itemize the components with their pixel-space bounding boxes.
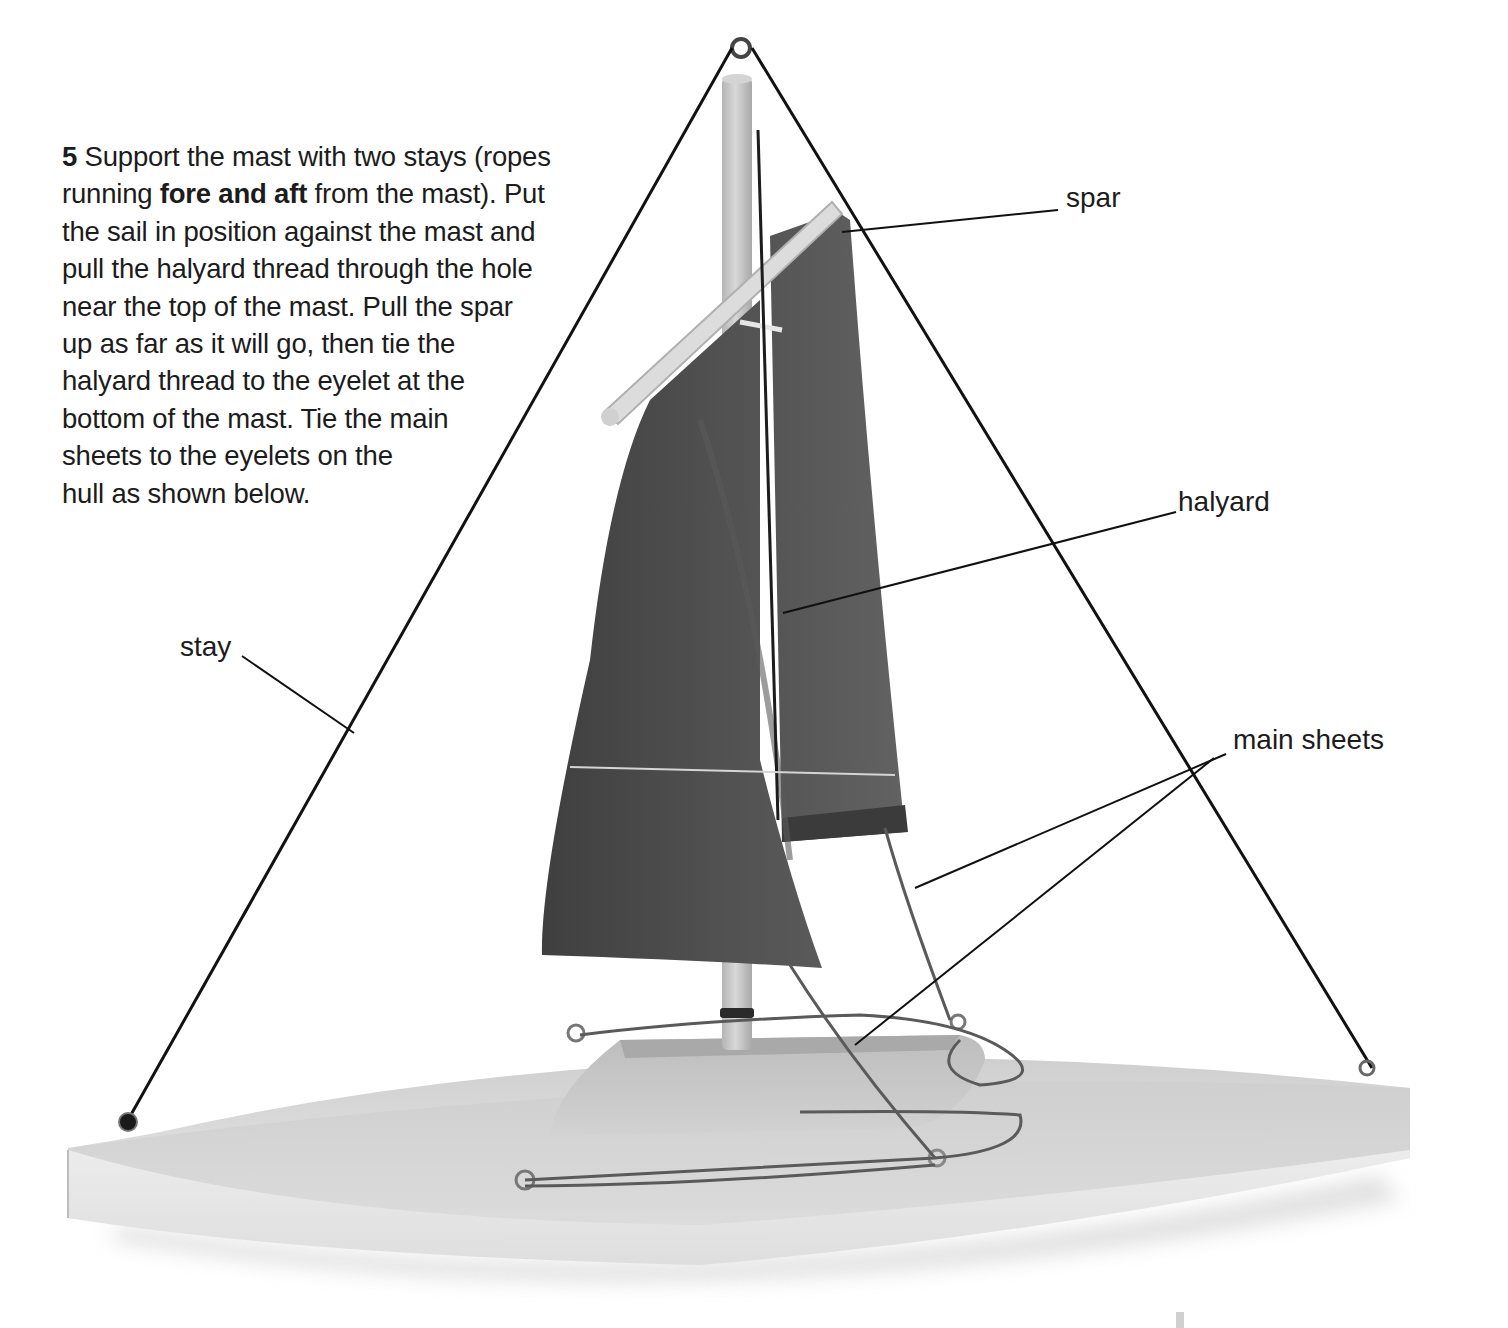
instruction-line: halyard thread to the eyelet at the — [62, 362, 662, 399]
instruction-line: hull as shown below. — [62, 475, 662, 512]
back-sail — [770, 212, 908, 842]
step-instructions: 5 Support the mast with two stays (ropes… — [62, 138, 662, 512]
label-halyard: halyard — [1178, 486, 1270, 518]
stay-leader-line — [242, 656, 354, 733]
instruction-line: 5 Support the mast with two stays (ropes — [62, 138, 662, 175]
instruction-line: pull the halyard thread through the hole — [62, 250, 662, 287]
top-eyelet — [732, 39, 750, 57]
label-spar: spar — [1066, 182, 1120, 214]
main-sheets-leader-line-1 — [915, 754, 1226, 888]
instruction-line: running fore and aft from the mast). Put — [62, 175, 662, 212]
label-stay: stay — [180, 631, 231, 663]
instruction-line: sheets to the eyelets on the — [62, 437, 662, 474]
instruction-line: bottom of the mast. Tie the main — [62, 400, 662, 437]
spar-leader-line — [842, 210, 1058, 232]
instruction-line: up as far as it will go, then tie the — [62, 325, 662, 362]
instruction-line: the sail in position against the mast an… — [62, 213, 662, 250]
stray-mark — [1176, 1312, 1184, 1328]
label-main-sheets: main sheets — [1233, 724, 1384, 756]
deck-block — [550, 1035, 985, 1136]
instruction-line: near the top of the mast. Pull the spar — [62, 288, 662, 325]
